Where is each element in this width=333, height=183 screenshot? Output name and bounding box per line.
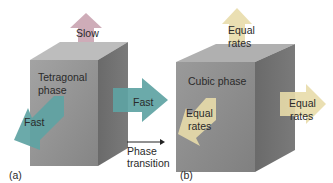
panel-b-label: (b) bbox=[180, 169, 193, 181]
equal-rates-front-label-line1: Equal bbox=[186, 107, 213, 119]
fast-front-label: Fast bbox=[24, 116, 44, 128]
slow-label: Slow bbox=[76, 27, 99, 39]
fast-right-label: Fast bbox=[133, 96, 153, 108]
equal-rates-right-label-line2: rates bbox=[290, 110, 313, 122]
panel-a-label: (a) bbox=[9, 169, 22, 181]
cubic-phase-label: Cubic phase bbox=[188, 75, 246, 87]
equal-rates-front-label-line2: rates bbox=[188, 120, 211, 132]
tetragonal-phase-label-line1: Tetragonal bbox=[38, 71, 87, 83]
phase-transition-label-line2: transition bbox=[127, 157, 170, 169]
equal-rates-up-label-line2: rates bbox=[228, 37, 248, 49]
equal-rates-right-label-line1: Equal bbox=[289, 97, 316, 109]
equal-rates-up-label-line1: Equal bbox=[228, 24, 248, 36]
phase-transition-diagram: Slow Tetragonal phase Fast Fast (a) Phas… bbox=[0, 0, 333, 183]
phase-transition-label-line1: Phase bbox=[127, 145, 157, 157]
tetragonal-phase-label-line2: phase bbox=[38, 84, 67, 96]
